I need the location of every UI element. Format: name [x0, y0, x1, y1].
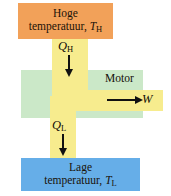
- cold-reservoir-text: temperatuur,: [44, 174, 102, 186]
- hot-reservoir-text: temperatuur,: [29, 20, 87, 32]
- arrow-down-icon-heat-in: [68, 55, 70, 70]
- cold-reservoir-subscript: L: [112, 178, 117, 188]
- arrow-down-icon-heat-out: [62, 134, 64, 149]
- engine-label: Motor: [105, 72, 134, 84]
- cold-reservoir-box: Lage temperatuur, TL: [21, 158, 140, 191]
- work-label: W: [142, 92, 152, 107]
- heat-engine-diagram: Hoge temperatuur, TH Lage temperatuur, T…: [0, 0, 171, 196]
- work-symbol: W: [142, 92, 152, 106]
- heat-out-symbol: Q: [52, 118, 61, 132]
- heat-in-symbol: Q: [58, 39, 67, 53]
- hot-reservoir-subscript: H: [96, 24, 102, 34]
- hot-reservoir-line2: temperatuur, TH: [29, 20, 102, 34]
- heat-out-subscript: L: [61, 123, 66, 133]
- cold-reservoir-line1: Lage: [69, 161, 92, 174]
- cold-reservoir-line2: temperatuur, TL: [44, 174, 116, 188]
- heat-in-subscript: H: [67, 44, 73, 54]
- hot-reservoir-line1: Hoge: [53, 7, 78, 20]
- heat-out-label: QL: [52, 118, 66, 133]
- arrow-right-icon-work: [107, 99, 135, 101]
- hot-reservoir-box: Hoge temperatuur, TH: [18, 3, 113, 39]
- heat-in-label: QH: [58, 39, 73, 54]
